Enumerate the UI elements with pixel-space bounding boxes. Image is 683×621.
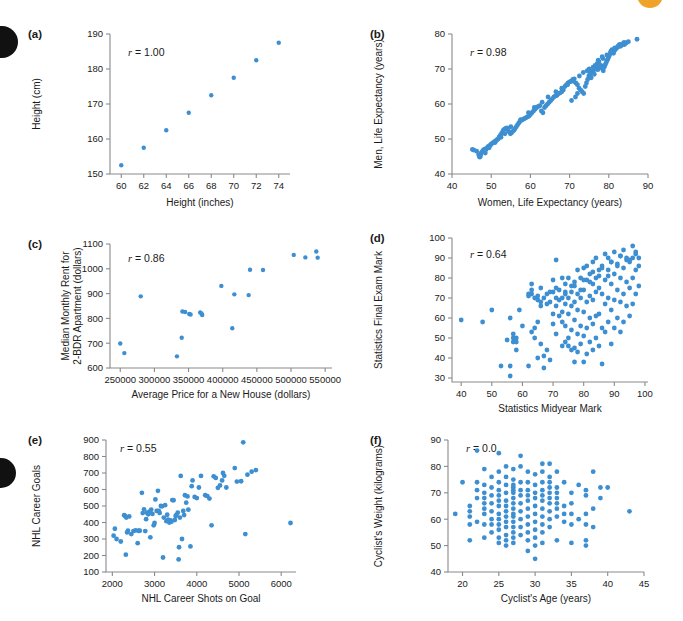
data-point xyxy=(606,296,611,301)
data-point xyxy=(560,310,565,315)
data-point xyxy=(627,509,632,514)
data-point xyxy=(185,494,190,499)
data-point xyxy=(547,490,552,495)
data-point xyxy=(127,514,132,519)
data-point xyxy=(288,521,293,526)
data-point xyxy=(475,448,480,453)
data-point xyxy=(475,496,480,501)
x-tick-label: 450000 xyxy=(241,374,273,385)
data-point xyxy=(245,472,250,477)
data-point xyxy=(511,525,516,530)
x-tick-label: 66 xyxy=(183,180,194,191)
data-point xyxy=(535,320,540,325)
data-point xyxy=(563,324,568,329)
data-point xyxy=(248,268,252,272)
data-point xyxy=(218,483,223,488)
data-point xyxy=(184,500,189,505)
data-point xyxy=(551,312,556,317)
data-point xyxy=(529,288,534,293)
x-tick-label: 80 xyxy=(578,388,589,399)
data-point xyxy=(123,552,128,557)
data-point xyxy=(587,316,592,321)
data-point xyxy=(489,517,494,522)
data-point xyxy=(467,509,472,514)
data-point xyxy=(525,530,530,535)
data-point xyxy=(148,535,153,540)
data-point xyxy=(209,93,213,97)
data-point xyxy=(621,292,626,297)
data-point xyxy=(243,532,248,537)
data-point xyxy=(164,128,168,132)
data-point xyxy=(545,302,550,307)
data-point xyxy=(532,105,537,110)
data-point xyxy=(303,255,307,259)
data-point xyxy=(557,314,562,319)
data-point xyxy=(209,523,214,528)
x-tick-label: 40 xyxy=(456,388,467,399)
data-point xyxy=(566,312,571,317)
data-point xyxy=(508,316,513,321)
data-point xyxy=(587,340,592,345)
y-tick-label: 300 xyxy=(83,533,99,544)
data-point xyxy=(615,316,620,321)
y-tick-label: 60 xyxy=(434,98,445,109)
data-point xyxy=(187,111,191,115)
data-point xyxy=(518,525,523,530)
data-point xyxy=(152,521,157,526)
data-point xyxy=(525,498,530,503)
data-point xyxy=(584,493,589,498)
data-point xyxy=(548,358,553,363)
data-point xyxy=(525,522,530,527)
data-point xyxy=(547,509,552,514)
y-tick-label: 200 xyxy=(83,550,99,561)
data-point xyxy=(618,300,623,305)
data-point xyxy=(533,496,538,501)
data-point xyxy=(511,467,516,472)
data-point xyxy=(511,541,516,546)
data-point xyxy=(194,496,199,501)
data-point xyxy=(496,498,501,503)
data-point xyxy=(592,72,597,77)
data-point xyxy=(541,296,546,301)
correlation-annotation: r = 0.55 xyxy=(120,442,157,454)
data-point xyxy=(504,490,509,495)
x-tick-label: 90 xyxy=(643,180,654,191)
data-point xyxy=(533,527,538,532)
data-point xyxy=(533,556,538,561)
data-point xyxy=(554,485,559,490)
data-point xyxy=(572,300,577,305)
correlation-value: = 1.00 xyxy=(132,46,165,58)
data-point xyxy=(569,490,574,495)
data-point xyxy=(489,475,494,480)
data-point xyxy=(587,280,592,285)
data-point xyxy=(526,364,531,369)
data-point xyxy=(612,326,617,331)
data-point xyxy=(590,348,595,353)
y-axis-title-line-1: Median Monthly Rent for xyxy=(60,251,71,361)
data-point xyxy=(518,488,523,493)
data-point xyxy=(505,338,510,343)
data-point xyxy=(525,469,530,474)
data-point xyxy=(254,58,258,62)
y-axis-title: Cyclist's Weight (kilograms) xyxy=(373,445,384,567)
data-point xyxy=(487,145,492,150)
data-point xyxy=(569,501,574,506)
data-point xyxy=(186,507,191,512)
data-point xyxy=(606,268,611,273)
data-point xyxy=(540,541,545,546)
data-point xyxy=(467,538,472,543)
data-point xyxy=(178,474,183,479)
data-point xyxy=(618,254,623,259)
data-point xyxy=(482,535,487,540)
data-point xyxy=(545,348,550,353)
correlation-value: = 0.0 xyxy=(470,442,497,454)
data-point xyxy=(142,146,146,150)
data-point xyxy=(540,522,545,527)
x-tick-label: 500000 xyxy=(275,374,307,385)
data-point xyxy=(569,522,574,527)
data-point xyxy=(482,506,487,511)
y-tick-label: 1000 xyxy=(82,263,103,274)
data-point xyxy=(511,332,516,337)
data-point xyxy=(483,151,488,156)
x-tick-label: 30 xyxy=(530,578,541,589)
